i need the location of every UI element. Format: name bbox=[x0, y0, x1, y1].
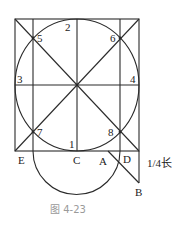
label-8: 8 bbox=[108, 126, 114, 138]
label-point-b: B bbox=[135, 186, 142, 198]
label-6: 6 bbox=[110, 32, 116, 44]
ellipse-construction-diagram: 2 5 6 3 4 7 8 1 E C A D B 1/4长 图 4-23 bbox=[0, 0, 178, 225]
label-point-d: D bbox=[123, 153, 131, 165]
label-point-e: E bbox=[18, 154, 25, 166]
label-1: 1 bbox=[69, 138, 75, 150]
label-5: 5 bbox=[37, 32, 43, 44]
point-8-dot bbox=[119, 131, 122, 134]
label-2: 2 bbox=[65, 21, 71, 33]
label-point-c: C bbox=[73, 154, 80, 166]
label-3: 3 bbox=[17, 73, 23, 85]
center-dot bbox=[76, 84, 79, 87]
label-4: 4 bbox=[130, 73, 136, 85]
point-6-dot bbox=[119, 37, 122, 40]
figure-caption: 图 4-23 bbox=[50, 204, 86, 215]
quarter-length-annotation: 1/4长 bbox=[147, 157, 172, 169]
label-7: 7 bbox=[37, 126, 43, 138]
point-7-dot bbox=[32, 131, 35, 134]
label-point-a: A bbox=[99, 155, 107, 167]
point-5-dot bbox=[32, 37, 35, 40]
